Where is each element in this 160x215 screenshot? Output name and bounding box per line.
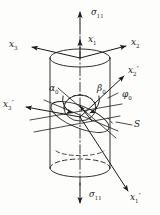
label-angle-beta0: β0: [97, 84, 106, 95]
label-stress-bottom: σ11: [89, 190, 102, 201]
figure-canvas: σ11 σ11 x1 x2 x3 x2′ x3′ x1′ α0 β0 φ0 S: [0, 0, 160, 215]
label-angle-phi0: φ0: [122, 90, 132, 101]
label-axis-x1: x1: [88, 35, 97, 46]
label-axis-x2-prime: x2′: [128, 66, 139, 77]
label-axis-x3-prime: x3′: [3, 100, 14, 111]
diagram-svg: [0, 0, 160, 215]
S-leader-line: [116, 122, 132, 125]
normal-direction-arrow: [80, 106, 92, 121]
angle-helper-arc-right: [80, 95, 96, 109]
label-angle-alpha0: α0: [49, 84, 59, 95]
label-axis-x1-prime: x1′: [130, 193, 141, 204]
phi0-leader-line: [108, 93, 118, 98]
label-axis-x2: x2: [131, 38, 140, 49]
S-rim-tick: [108, 118, 113, 124]
axis-x2-arrow: [80, 46, 126, 58]
axis-x3-arrow: [32, 47, 80, 58]
label-stress-top: σ11: [91, 8, 104, 19]
label-section-S: S: [134, 120, 140, 129]
label-axis-x3: x3: [9, 40, 18, 51]
